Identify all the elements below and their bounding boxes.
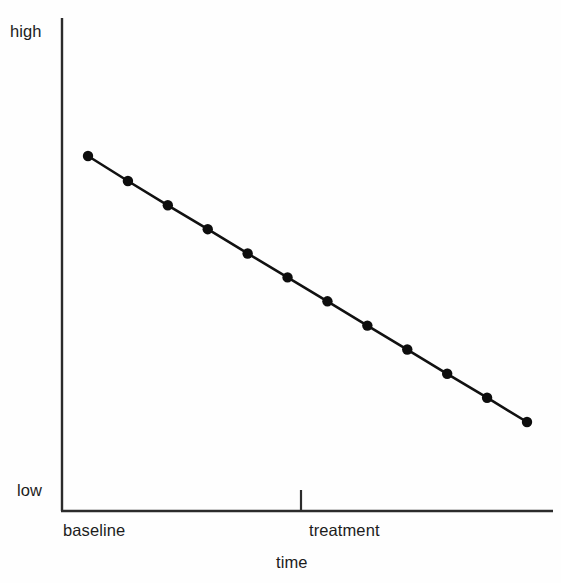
data-series-measure xyxy=(83,151,532,427)
data-point xyxy=(442,369,452,379)
data-point xyxy=(482,393,492,403)
data-point xyxy=(402,344,412,354)
data-point xyxy=(362,320,372,330)
series-line xyxy=(88,156,527,422)
x-axis-title: time xyxy=(276,553,308,572)
x-axis-phase-label-treatment: treatment xyxy=(309,521,380,540)
data-point xyxy=(123,176,133,186)
data-point xyxy=(282,272,292,282)
data-point xyxy=(83,151,93,161)
y-axis-high-label: high xyxy=(10,22,42,41)
data-point xyxy=(163,200,173,210)
data-point xyxy=(322,296,332,306)
chart-figure: high low baseline treatment time xyxy=(0,0,561,583)
data-point xyxy=(522,417,532,427)
data-point xyxy=(203,224,213,234)
y-axis-low-label: low xyxy=(17,481,42,500)
x-axis-phase-label-baseline: baseline xyxy=(63,521,125,540)
line-chart-plot xyxy=(0,0,561,583)
data-point xyxy=(242,248,252,258)
chart-axes xyxy=(61,18,553,511)
